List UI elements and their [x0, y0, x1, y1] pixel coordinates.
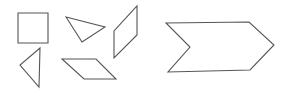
shapes-diagram	[0, 0, 290, 98]
background	[0, 0, 290, 98]
